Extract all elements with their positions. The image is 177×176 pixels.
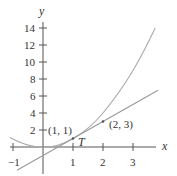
chart: −1 1 2 3 2 4 6 8 10 12 14 x y (1, 1) (2,… [0,0,177,176]
y-tick-label: 4 [30,107,36,119]
point-2-3 [102,120,105,123]
x-tick-label: 3 [130,156,136,168]
x-tick-label: 2 [100,156,106,168]
x-tick-label: −1 [8,156,20,168]
y-tick-label: 8 [30,73,36,85]
y-axis-label: y [38,4,45,18]
point-1-1 [72,137,75,140]
x-axis-label: x [161,139,168,153]
x-tick-label: 1 [70,156,76,168]
y-tick-label: 14 [24,22,36,34]
y-tick-label: 10 [24,56,36,68]
y-tick-label: 12 [24,39,35,51]
y-tick-label: 2 [30,124,36,136]
point-label-1-1: (1, 1) [48,124,72,137]
point-label-2-3: (2, 3) [109,118,133,131]
tangent-line [17,90,158,170]
y-tick-label: 6 [30,90,36,102]
